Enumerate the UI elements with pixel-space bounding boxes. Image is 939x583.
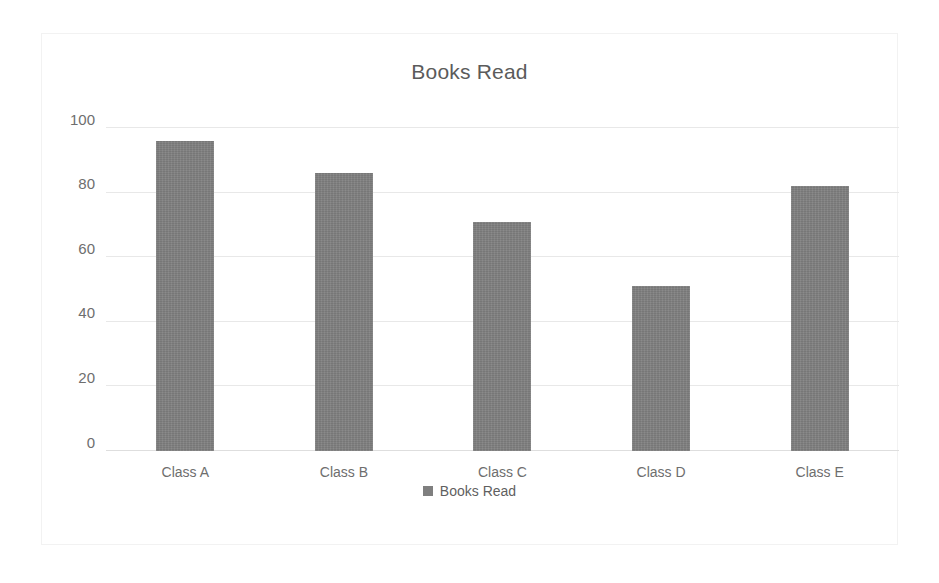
chart-legend: Books Read — [42, 483, 897, 499]
x-tick-slot: Class A — [106, 128, 265, 451]
x-axis-tick-label: Class C — [478, 464, 527, 480]
x-axis-tick-label: Class A — [162, 464, 209, 480]
x-axis-tick-label: Class E — [796, 464, 844, 480]
chart-title: Books Read — [42, 60, 897, 84]
legend-square-marker-icon — [423, 486, 433, 496]
x-axis-tick-label: Class B — [320, 464, 368, 480]
legend-label-books-read: Books Read — [440, 483, 516, 499]
y-axis-tick-label: 60 — [78, 239, 95, 256]
y-axis-tick-label: 100 — [70, 110, 95, 127]
y-axis-tick-label: 80 — [78, 175, 95, 192]
y-axis-tick-label: 40 — [78, 304, 95, 321]
x-tick-slot: Class B — [265, 128, 424, 451]
chart-container: Books Read 020406080100 Class AClass BCl… — [41, 33, 898, 545]
y-axis-tick-label: 20 — [78, 368, 95, 385]
x-tick-slot: Class D — [582, 128, 741, 451]
y-axis-tick-label: 0 — [87, 433, 95, 450]
x-tick-slot: Class C — [423, 128, 582, 451]
x-tick-slot: Class E — [740, 128, 899, 451]
x-axis-tick-label: Class D — [637, 464, 686, 480]
plot-area: 020406080100 Class AClass BClass CClass … — [106, 128, 899, 451]
